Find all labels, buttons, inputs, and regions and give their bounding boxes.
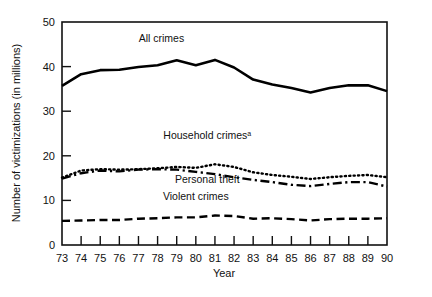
- x-axis-title: Year: [213, 267, 236, 279]
- y-tick-label: 40: [43, 61, 55, 73]
- series-label-violent-crimes: Violent crimes: [163, 190, 229, 202]
- series-label-superscript: a: [247, 129, 251, 136]
- x-tick-label: 85: [285, 252, 297, 264]
- series-label-text: All crimes: [139, 32, 185, 44]
- x-tick-label: 88: [343, 252, 355, 264]
- series-label-household-crimes: Household crimesa: [163, 129, 251, 141]
- x-tick-label: 75: [94, 252, 106, 264]
- x-tick-label: 81: [209, 252, 221, 264]
- y-axis-title: Number of victimizations (in millions): [10, 44, 22, 223]
- x-tick-label: 80: [190, 252, 202, 264]
- x-tick-label: 79: [171, 252, 183, 264]
- series-label-personal-theft: Personal theft: [175, 173, 240, 185]
- x-tick-label: 74: [75, 252, 87, 264]
- y-tick-label: 50: [43, 16, 55, 28]
- x-tick-label: 77: [132, 252, 144, 264]
- series-label-text: Personal theft: [175, 173, 240, 185]
- y-tick-label: 20: [43, 150, 55, 162]
- x-tick-label: 82: [228, 252, 240, 264]
- series-label-text: Violent crimes: [163, 190, 229, 202]
- chart-container: 01020304050 7374757677787980818283848586…: [0, 0, 432, 297]
- x-tick-label: 89: [362, 252, 374, 264]
- x-tick-label: 78: [151, 252, 163, 264]
- y-tick-label: 30: [43, 105, 55, 117]
- x-tick-label: 90: [381, 252, 393, 264]
- x-tick-label: 73: [56, 252, 68, 264]
- series-annotations: All crimesHousehold crimesaPersonal thef…: [139, 32, 252, 201]
- victimization-line-chart: 01020304050 7374757677787980818283848586…: [0, 0, 432, 297]
- series-label-all-crimes: All crimes: [139, 32, 185, 44]
- x-axis: 737475767778798081828384858687888990: [56, 236, 393, 264]
- y-tick-label: 0: [49, 239, 55, 251]
- series-label-text: Household crimes: [163, 129, 247, 141]
- series-line-violent-crimes: [62, 216, 387, 221]
- y-axis: 01020304050: [43, 16, 71, 251]
- x-tick-label: 83: [247, 252, 259, 264]
- series-line-all-crimes: [62, 60, 387, 93]
- x-tick-label: 86: [304, 252, 316, 264]
- y-tick-label: 10: [43, 194, 55, 206]
- x-tick-label: 87: [324, 252, 336, 264]
- x-tick-label: 76: [113, 252, 125, 264]
- x-tick-label: 84: [266, 252, 278, 264]
